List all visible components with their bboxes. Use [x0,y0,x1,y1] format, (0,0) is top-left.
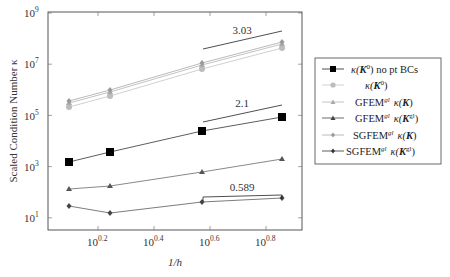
y-tick-label: 107 [24,56,39,70]
slope-line-low [203,195,282,197]
y-axis-label: Scaled Condition Number κ [7,59,19,183]
legend-entry: GFEMglκ(K) [355,96,413,109]
chart: 109 107 105 103 101 100.2 100.4 100.6 10… [0,0,450,277]
series-line-sgfem-kgl [69,198,282,213]
slope-label-low: 0.589 [230,181,255,193]
legend-entry: SGFEMglκ(Kgl) [346,145,415,158]
y-tick-labels: 109 107 105 103 101 [24,5,39,224]
x-tick-label: 100.8 [255,234,276,248]
legend-entry: κ(K0) [365,79,388,92]
slope-label-top: 3.03 [232,24,252,36]
legend-entry: SGFEMglκ(K) [353,129,417,142]
series-line-kappa-k0-nobc [69,117,282,162]
series-line-sgfem-k [69,42,282,101]
square-markers [65,113,286,166]
legend-circle-icon [330,82,335,87]
x-tick-label: 100.2 [87,234,108,248]
legend-square-icon [330,66,336,72]
series-line-kappa-k0 [69,48,282,107]
slope-annotations [203,31,282,201]
x-axis-label: 1/h [168,256,183,268]
y-tick-label: 109 [24,5,39,19]
slope-label-mid: 2.1 [235,97,249,109]
x-axis [98,12,266,230]
circle-markers [66,45,285,110]
diamond-markers-light [67,39,285,104]
x-tick-label: 100.4 [143,234,164,248]
x-tick-labels: 100.2 100.4 100.6 100.8 [87,234,276,248]
y-axis [48,13,302,218]
legend-entry: κ(K0) no pt BCs [351,63,418,76]
plot-frame [48,12,302,230]
y-tick-label: 101 [24,210,39,224]
y-tick-label: 105 [24,108,39,122]
y-tick-label: 103 [24,159,39,173]
legend: κ(K0) no pt BCs κ(K0) GFEMglκ(K) GFEMglκ… [315,58,441,164]
x-tick-label: 100.6 [199,234,220,248]
series-line-gfem-k [69,44,282,103]
